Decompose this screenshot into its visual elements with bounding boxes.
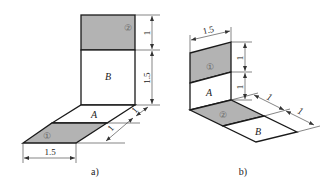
- marker-1-label: ①: [43, 131, 51, 141]
- marker-2-label: ②: [219, 110, 227, 120]
- dim-wall-width-value: 1.5: [202, 24, 216, 36]
- marker-1-label: ①: [206, 62, 214, 72]
- dim-wall-top-value: 1: [235, 56, 245, 61]
- extension-line: [231, 93, 258, 100]
- floor-a-label: A: [90, 109, 98, 120]
- dim-floor-width-value: 1.5: [44, 147, 56, 157]
- caption-b: b): [239, 166, 247, 178]
- dim-wall-bottom-value: 1.5: [142, 72, 152, 84]
- dim-wall-top-value: 1: [142, 31, 152, 36]
- caption-a: a): [91, 166, 99, 178]
- figure-a: ② B A ① 1 1.5 1 1 1.5 a): [23, 15, 160, 178]
- floor-front-shaded-region: [23, 123, 107, 143]
- dim-wall-bottom-value: 1: [235, 85, 245, 90]
- extension-line: [264, 109, 290, 116]
- marker-2-label: ②: [124, 23, 132, 33]
- diagram-canvas: ② B A ① 1 1.5 1 1 1.5 a): [0, 0, 325, 191]
- wall-a-label: A: [205, 87, 213, 98]
- dim-floor-second-value: 1: [296, 105, 305, 117]
- dim-floor-first-value: 1: [265, 91, 274, 103]
- figure-b: ① A ② B 1.5 1 1 1 1 b): [190, 24, 320, 178]
- dim-floor-depth-front-value: 1: [105, 123, 116, 133]
- floor-b-label: B: [255, 126, 261, 137]
- extension-line: [297, 126, 320, 132]
- dim-floor-depth-back-value: 1: [129, 105, 140, 115]
- wall-b-label: B: [105, 71, 111, 82]
